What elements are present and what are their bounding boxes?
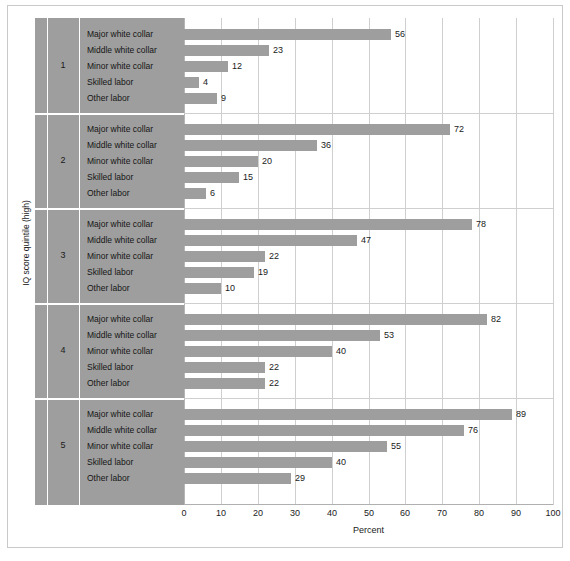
category-label: Major white collar — [87, 219, 153, 230]
category-label: Skilled labor — [87, 172, 133, 183]
bar-value-label: 6 — [210, 188, 215, 199]
category-label: Middle white collar — [87, 425, 157, 436]
category-panel: 1Major white collarMiddle white collarMi… — [35, 18, 184, 505]
bar-value-label: 20 — [262, 156, 272, 167]
gridline-vertical-90 — [516, 18, 517, 505]
x-tick-label-20: 20 — [243, 509, 273, 518]
figure-frame: IQ score quintile (high) 1Major white co… — [7, 5, 563, 548]
panel-group-separator — [35, 208, 184, 210]
bar — [184, 441, 387, 452]
category-label: Skilled labor — [87, 77, 133, 88]
x-tick-label-10: 10 — [206, 509, 236, 518]
category-label: Major white collar — [87, 409, 153, 420]
category-label: Minor white collar — [87, 441, 153, 452]
category-label: Middle white collar — [87, 140, 157, 151]
category-label: Skilled labor — [87, 267, 133, 278]
panel-column-divider-0 — [47, 18, 48, 505]
bar-value-label: 56 — [395, 29, 405, 40]
bar-value-label: 72 — [454, 124, 464, 135]
gridline-group-separator — [184, 398, 553, 399]
category-label: Major white collar — [87, 124, 153, 135]
bar — [184, 346, 332, 357]
x-axis-line — [184, 504, 553, 505]
bar-value-label: 15 — [243, 172, 253, 183]
bar-value-label: 12 — [232, 61, 242, 72]
bar — [184, 188, 206, 199]
bar — [184, 251, 265, 262]
bar-value-label: 22 — [269, 378, 279, 389]
bar — [184, 473, 291, 484]
panel-column-divider-1 — [79, 18, 80, 505]
category-label: Skilled labor — [87, 362, 133, 373]
bar-value-label: 10 — [225, 283, 235, 294]
bar-value-label: 53 — [384, 330, 394, 341]
x-tick-label-70: 70 — [427, 509, 457, 518]
bar — [184, 425, 464, 436]
bar — [184, 61, 228, 72]
x-tick-label-0: 0 — [169, 509, 199, 518]
category-label: Middle white collar — [87, 235, 157, 246]
bar — [184, 77, 199, 88]
bar — [184, 330, 380, 341]
gridline-vertical-80 — [479, 18, 480, 505]
quintile-label-1: 1 — [47, 61, 79, 70]
bar — [184, 378, 265, 389]
bar — [184, 140, 317, 151]
bar-value-label: 22 — [269, 251, 279, 262]
y-axis-title: IQ score quintile (high) — [21, 173, 31, 313]
quintile-label-4: 4 — [47, 346, 79, 355]
panel-group-separator — [35, 303, 184, 305]
bar-value-label: 23 — [273, 45, 283, 56]
category-label: Middle white collar — [87, 330, 157, 341]
quintile-label-5: 5 — [47, 441, 79, 450]
plot-area: 5623124972362015678472219108253402222897… — [184, 18, 553, 505]
x-tick-label-40: 40 — [317, 509, 347, 518]
bar — [184, 156, 258, 167]
category-label: Other labor — [87, 188, 130, 199]
bar — [184, 235, 357, 246]
category-label: Other labor — [87, 473, 130, 484]
category-label: Minor white collar — [87, 61, 153, 72]
bar — [184, 409, 512, 420]
bar-value-label: 55 — [391, 441, 401, 452]
bar — [184, 457, 332, 468]
x-tick-label-30: 30 — [280, 509, 310, 518]
bar-value-label: 29 — [295, 473, 305, 484]
bar — [184, 314, 487, 325]
gridline-group-separator — [184, 113, 553, 114]
bar — [184, 93, 217, 104]
x-tick-label-50: 50 — [354, 509, 384, 518]
x-tick-label-90: 90 — [501, 509, 531, 518]
bar-value-label: 22 — [269, 362, 279, 373]
gridline-group-separator — [184, 303, 553, 304]
category-label: Other labor — [87, 93, 130, 104]
quintile-label-2: 2 — [47, 156, 79, 165]
bar — [184, 267, 254, 278]
category-label: Middle white collar — [87, 45, 157, 56]
bar-value-label: 36 — [321, 140, 331, 151]
bar — [184, 124, 450, 135]
bar — [184, 219, 472, 230]
bar-value-label: 40 — [336, 346, 346, 357]
category-label: Other labor — [87, 283, 130, 294]
gridline-vertical-100 — [553, 18, 554, 505]
x-tick-label-100: 100 — [538, 509, 568, 518]
x-tick-label-60: 60 — [390, 509, 420, 518]
category-label: Major white collar — [87, 29, 153, 40]
category-label: Major white collar — [87, 314, 153, 325]
bar — [184, 172, 239, 183]
bar-value-label: 4 — [203, 77, 208, 88]
category-label: Skilled labor — [87, 457, 133, 468]
bar-value-label: 47 — [361, 235, 371, 246]
quintile-label-3: 3 — [47, 251, 79, 260]
bar-value-label: 40 — [336, 457, 346, 468]
category-label: Minor white collar — [87, 156, 153, 167]
bar-value-label: 9 — [221, 93, 226, 104]
bar — [184, 45, 269, 56]
figure-root: IQ score quintile (high) 1Major white co… — [0, 0, 570, 561]
bar — [184, 283, 221, 294]
gridline-group-separator — [184, 208, 553, 209]
x-tick-label-80: 80 — [464, 509, 494, 518]
category-label: Minor white collar — [87, 251, 153, 262]
bar-value-label: 76 — [468, 425, 478, 436]
